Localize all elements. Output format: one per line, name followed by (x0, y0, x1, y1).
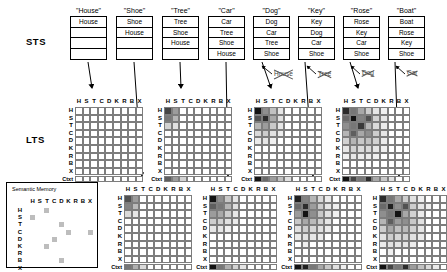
matrix-cell (269, 122, 277, 130)
matrix-context-cell (292, 176, 300, 182)
dropped-word: Dog (362, 69, 374, 76)
matrix-cell (277, 153, 285, 161)
semantic-row-label: B (17, 257, 23, 264)
matrix-cell (324, 195, 332, 203)
matrix-cell (83, 107, 91, 115)
matrix-cell (75, 153, 83, 161)
sts-slot-stack: RoseKeyCarShoe (343, 16, 380, 60)
matrix-cell (317, 210, 325, 218)
matrix-cell (270, 218, 278, 226)
matrix-cell (380, 130, 388, 138)
matrix-cell (105, 153, 113, 161)
matrix-cell (315, 160, 323, 168)
semantic-row-label: S (17, 214, 23, 221)
matrix-col-label: K (162, 186, 170, 192)
dropped-word: Tree (318, 70, 331, 77)
matrix-cell (121, 153, 129, 161)
matrix-col-label: R (121, 98, 129, 104)
matrix-cell (75, 115, 83, 123)
matrix-cell (309, 248, 317, 256)
matrix-cell (379, 248, 387, 256)
matrix-context-row (209, 264, 277, 270)
matrix-cell (357, 160, 365, 168)
matrix-cell (170, 210, 178, 218)
matrix-row-label: T (373, 210, 377, 218)
sts-slot-item: Key (389, 38, 424, 49)
matrix-cell (239, 210, 247, 218)
matrix-cell (372, 160, 380, 168)
matrix-row-label: K (373, 233, 377, 241)
sts-cue-label: "Rose" (343, 6, 380, 16)
matrix-cell (350, 130, 358, 138)
matrix-cell (225, 160, 233, 168)
semantic-cell (43, 257, 50, 264)
semantic-row-label: T (17, 221, 23, 228)
matrix-cell (162, 218, 170, 226)
matrix-cell (164, 160, 172, 168)
matrix-cell (225, 153, 233, 161)
matrix-cell (172, 122, 180, 130)
dropped-word-text: Car (407, 69, 417, 76)
matrix-cell (255, 233, 263, 241)
matrix-cell (425, 241, 433, 249)
matrix-cell (315, 107, 323, 115)
matrix-cell (162, 203, 170, 211)
matrix-cell (365, 153, 373, 161)
semantic-cell (58, 257, 65, 264)
matrix-cell (350, 137, 358, 145)
matrix-cell (350, 160, 358, 168)
sts-slot-item: House (163, 38, 198, 49)
matrix-cell (170, 225, 178, 233)
matrix-cell (239, 203, 247, 211)
matrix-cell (124, 241, 132, 249)
sts-buffer-2: "Shoe"ShoeHouse (116, 6, 153, 60)
matrix-cell (342, 145, 350, 153)
matrix-cell (394, 203, 402, 211)
matrix-context-cell (254, 176, 262, 182)
sts-buffer-6: "Key"KeyDogCarShoe (298, 6, 335, 60)
matrix-cell (347, 218, 355, 226)
sts-slot-item: House (117, 28, 152, 39)
semantic-association-marker (59, 258, 64, 263)
matrix-cell (170, 195, 178, 203)
semantic-cell (51, 265, 58, 272)
matrix-context-cell (332, 264, 340, 270)
matrix-row-label: K (158, 145, 162, 153)
matrix-cell (332, 225, 340, 233)
matrix-cell (194, 160, 202, 168)
matrix-context-row (254, 176, 322, 182)
matrix-cell (380, 107, 388, 115)
matrix-cell (309, 256, 317, 264)
matrix-row-label: S (288, 203, 292, 211)
matrix-cell (284, 130, 292, 138)
matrix-cell (177, 203, 185, 211)
matrix-cell (254, 145, 262, 153)
semantic-memory-panel: Semantic Memory HSTCDKRBX HSTCDKRBX (6, 182, 98, 268)
matrix-cell (225, 137, 233, 145)
matrix-cell (209, 241, 217, 249)
matrix-cell (232, 195, 240, 203)
matrix-col-label: R (300, 98, 308, 104)
matrix-cell (300, 145, 308, 153)
matrix-cell (185, 218, 193, 226)
matrix-row-label: H (158, 107, 162, 115)
matrix-cell (425, 210, 433, 218)
matrix-col-label: S (262, 98, 270, 104)
lts-section-label: LTS (26, 134, 45, 145)
semantic-cell (87, 214, 94, 221)
matrix-cell (255, 225, 263, 233)
matrix-cell (388, 168, 396, 176)
semantic-row-label: C (17, 229, 23, 236)
matrix-cell (315, 130, 323, 138)
matrix-cell (309, 210, 317, 218)
matrix-cell (388, 160, 396, 168)
matrix-cell (187, 168, 195, 176)
matrix-cell (185, 203, 193, 211)
semantic-cell (58, 221, 65, 228)
matrix-col-label: B (262, 186, 270, 192)
matrix-cell (202, 160, 210, 168)
semantic-cell (36, 236, 43, 243)
matrix-cell (247, 218, 255, 226)
matrix-cell (172, 160, 180, 168)
matrix-cell (239, 195, 247, 203)
